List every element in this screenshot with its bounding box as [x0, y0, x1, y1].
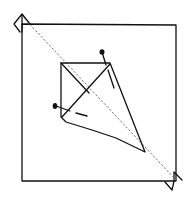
kite-crease-1 [61, 63, 89, 93]
paper-square [22, 24, 176, 181]
diagonal-fold-line [22, 16, 176, 180]
dash-top [108, 70, 114, 88]
pin-top-icon [100, 49, 105, 55]
pin-left-icon [53, 103, 58, 109]
top-left-flap [14, 14, 30, 32]
origami-diagram [0, 0, 193, 206]
